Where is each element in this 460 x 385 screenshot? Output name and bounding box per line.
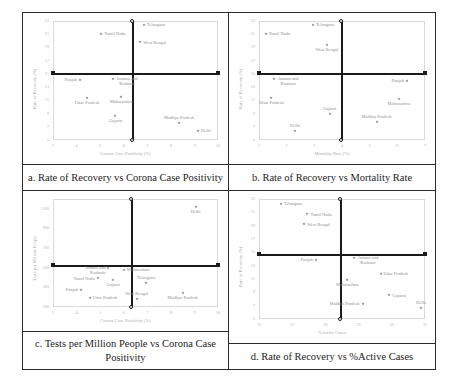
x-axis-tick: 5 [92,310,108,315]
data-point-label: Maharashtra [386,101,412,106]
crosshair-endpoint-marker [338,317,342,321]
data-point-label: Madhya Pradesh [360,114,393,119]
scatter-chart-d: 57911131517192123101520253035%Active Cas… [229,191,435,343]
data-point-label: West Bengal [143,40,169,45]
x-axis-tick: 8 [163,310,179,315]
y-axis-tick: 5 [229,316,255,321]
y-axis-tick: 100 [23,304,49,309]
y-axis-tick: 17 [23,58,49,63]
figure-cell-b: 579111315171921231234567Mortality Rate (… [229,13,435,191]
crosshair-endpoint-marker [423,71,427,75]
x-axis-tick: 6 [116,143,132,148]
y-axis-title: Rate of Recovery (%) [32,68,37,108]
x-axis-tick: 20 [317,322,333,327]
scatter-chart-a: 57911131517192123345678910Corona Case Po… [23,13,228,164]
y-axis-tick: 900 [23,225,49,230]
data-point-label: Madhya Pradesh [166,295,199,300]
y-axis-tick: 19 [229,223,255,228]
crosshair-endpoint-marker [129,305,133,309]
data-point-label: Punjab [64,287,78,292]
data-point-label: Tamil Nadu [310,212,334,217]
crosshair-endpoint-marker [257,71,261,75]
x-axis-tick: 3 [306,143,322,148]
y-axis-tick: 21 [229,209,255,214]
x-axis-tick: 10 [210,143,226,148]
figure-cell-d: 57911131517192123101520253035%Active Cas… [229,191,435,369]
crosshair-endpoint-marker [51,71,55,75]
data-point-label: Punjab [390,78,404,83]
x-axis-tick: 4 [69,143,85,148]
x-axis-tick: 25 [351,322,367,327]
y-axis-tick: 5 [229,137,255,142]
y-axis-tick: 19 [23,44,49,49]
data-point-label: Jammu and Kashmir [357,255,379,265]
data-point-label: Gujarat [105,282,121,287]
data-point-label: Gujarat [107,118,123,123]
crosshair-endpoint-marker [339,19,343,23]
data-point-label: West Bengal [314,47,340,52]
data-point-label: Delhi [289,123,301,128]
x-axis-tick: 15 [284,322,300,327]
crosshair-endpoint-marker [339,138,343,142]
data-point-label: West Bengal [124,291,150,296]
data-point-label: Madhya Pradesh [163,115,196,120]
crosshair-endpoint-marker [216,71,220,75]
data-point-label: Punjab [63,77,77,82]
x-axis-title: Mortality Rate (%) [229,151,435,156]
data-point-label: Telangana [316,22,337,27]
y-axis-title: Tests per Million People [32,236,37,281]
data-point-label: Gujarat [321,106,337,111]
x-axis-tick: 3 [45,310,61,315]
y-axis-tick: 300 [23,284,49,289]
x-axis-tick: 10 [251,322,267,327]
data-point-label: Maharashtra [334,282,360,287]
crosshair-vertical-line [341,21,343,140]
data-point-label: Telangana [284,201,305,206]
y-axis-tick: 17 [229,236,255,241]
y-axis-tick: 21 [229,31,255,36]
data-point-label: Jammu and Kashmir [83,265,105,275]
y-axis-tick: 9 [23,111,49,116]
x-axis-tick: 9 [186,310,202,315]
data-point-label: West Bengal [307,222,333,227]
crosshair-endpoint-marker [216,263,220,267]
scatter-chart-c: 1003005007009001100345678910Corona Case … [23,191,228,331]
x-axis-tick: 9 [186,143,202,148]
data-point-label: Maharashtra [127,267,153,272]
x-axis-tick: 6 [389,143,405,148]
x-axis-title: Corona Case Positivity (%) [23,318,228,323]
crosshair-endpoint-marker [130,138,134,142]
x-axis-tick: 10 [210,310,226,315]
figure-caption-c: c. Tests per Million People vs Corona Ca… [23,331,228,369]
x-axis-tick: 7 [417,143,433,148]
y-axis-tick: 1100 [23,206,49,211]
data-point-label: Uttar Pradesh [93,295,124,300]
x-axis-tick: 4 [334,143,350,148]
y-axis-title: Rate of Recovery (%) [238,68,243,108]
x-axis-tick: 35 [417,322,433,327]
data-point-label: Uttar Pradesh [256,100,287,105]
y-axis-tick: 9 [229,289,255,294]
data-point-label: Delhi [415,300,427,305]
crosshair-endpoint-marker [423,252,427,256]
x-axis-tick: 6 [116,310,132,315]
y-axis-tick: 9 [229,111,255,116]
figure-cell-a: 57911131517192123345678910Corona Case Po… [23,13,229,191]
data-point-label: Jammu and Kashmir [277,76,299,86]
data-point-label: Telangana [136,275,157,280]
y-axis-tick: 7 [23,124,49,129]
data-point-label: Madhya Pradesh [327,301,360,306]
data-point-label: Tamil Nadu [71,276,95,281]
data-point-label: Gujarat [392,293,408,298]
data-point [361,302,364,305]
data-point-label: Telangana [147,22,168,27]
data-point-label: Delhi [190,209,202,214]
y-axis-tick: 5 [23,137,49,142]
figure-caption-b: b. Rate of Recovery vs Mortality Rate [229,164,435,190]
data-point-label: Tamil Nadu [104,31,128,36]
data-point-label: Jammu and Kashmir [116,76,138,86]
crosshair-endpoint-marker [51,263,55,267]
y-axis-title: Rate of Recovery (%) [238,247,243,287]
x-axis-tick: 30 [384,322,400,327]
y-axis-tick: 17 [229,58,255,63]
